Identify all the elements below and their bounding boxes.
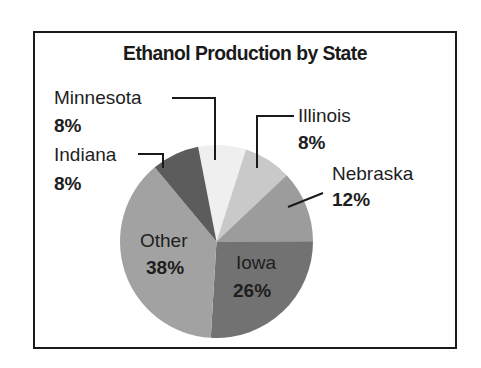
pct-iowa: 26% <box>233 280 271 302</box>
pct-other: 38% <box>146 257 184 279</box>
pct-nebraska: 12% <box>332 189 370 211</box>
label-nebraska: Nebraska <box>332 163 413 185</box>
pct-indiana: 8% <box>54 173 81 195</box>
pct-illinois: 8% <box>298 132 325 154</box>
label-illinois: Illinois <box>298 105 351 127</box>
label-other: Other <box>140 230 188 252</box>
pct-minnesota: 8% <box>54 115 81 137</box>
label-minnesota: Minnesota <box>54 87 142 109</box>
label-indiana: Indiana <box>54 144 116 166</box>
label-iowa: Iowa <box>236 252 276 274</box>
